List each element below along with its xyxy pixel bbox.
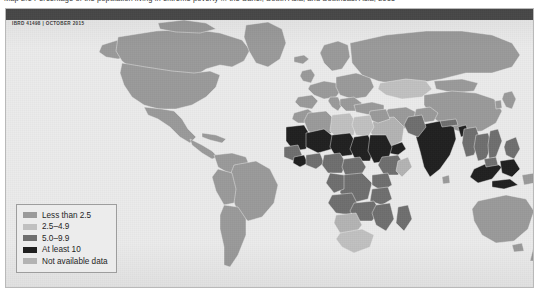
map-credit-ribbon <box>6 9 533 20</box>
legend-item-3[interactable]: At least 10 <box>23 244 108 256</box>
legend-item-2[interactable]: 5.0–9.9 <box>23 233 108 245</box>
legend-item-0[interactable]: Less than 2.5 <box>23 210 108 222</box>
legend-swatch-5-0-to-9-9 <box>23 235 37 241</box>
map-legend: Less than 2.5 2.5–4.9 5.0–9.9 At least 1… <box>16 204 117 274</box>
map-figure-frame: IBRD 41498 | OCTOBER 2015 <box>5 8 534 288</box>
legend-label-not-available: Not available data <box>42 257 108 266</box>
country-malaysia[interactable] <box>484 157 498 167</box>
legend-swatch-not-available <box>23 258 37 264</box>
figure-caption-text: Map 2.1 Percentage of the population liv… <box>0 0 539 2</box>
legend-label-less-than-2-5: Less than 2.5 <box>42 211 91 220</box>
credit-separator: | <box>42 21 44 26</box>
legend-item-1[interactable]: 2.5–4.9 <box>23 221 108 233</box>
legend-label-at-least-10: At least 10 <box>42 245 81 254</box>
map-credit-label: IBRD 41498 | OCTOBER 2015 <box>12 21 84 27</box>
legend-label-5-0-to-9-9: 5.0–9.9 <box>42 234 69 243</box>
ibrd-number: IBRD 41498 <box>12 21 41 26</box>
legend-swatch-2-5-to-4-9 <box>23 224 37 230</box>
figure-caption-cutoff: Map 2.1 Percentage of the population liv… <box>0 0 539 7</box>
legend-label-2-5-to-4-9: 2.5–4.9 <box>42 222 69 231</box>
legend-swatch-less-than-2-5 <box>23 212 37 218</box>
legend-item-4[interactable]: Not available data <box>23 256 108 268</box>
country-papua-new-guinea[interactable] <box>522 173 534 185</box>
legend-swatch-at-least-10 <box>23 247 37 253</box>
credit-date: OCTOBER 2015 <box>46 21 85 26</box>
country-korea[interactable] <box>495 100 502 109</box>
